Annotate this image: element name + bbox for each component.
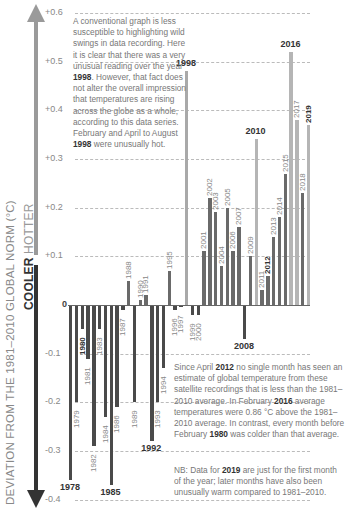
y-tick-label: -0.4 <box>45 494 61 504</box>
bar-label-2000: 2000 <box>194 323 203 341</box>
temperature-deviation-chart: DEVIATION FROM THE 1981–2010 GLOBAL NORM… <box>0 0 346 514</box>
bar-2000 <box>197 305 200 315</box>
gridline <box>75 159 310 160</box>
bar-label-2009: 2009 <box>246 237 255 255</box>
y-tick-label: -0.3 <box>45 445 61 455</box>
bar-label-1991: 1991 <box>141 275 150 293</box>
bar-2002 <box>208 198 211 305</box>
hotter-label: HOTTER <box>22 203 36 257</box>
bar-label-1983: 1983 <box>95 338 104 356</box>
y-tick-label: +0.3 <box>45 153 63 163</box>
bar-label-2007: 2007 <box>234 207 243 225</box>
bar-label-1985: 1985 <box>101 487 121 497</box>
annotation-nb-2019: NB: Data for 2019 are just for the first… <box>174 465 346 499</box>
bar-2005 <box>226 208 229 305</box>
bar-label-2005: 2005 <box>223 188 232 206</box>
bar-2011 <box>260 290 263 305</box>
bar-label-2003: 2003 <box>211 193 220 211</box>
bar-label-1980: 1980 <box>78 338 87 356</box>
bar-1982 <box>92 305 95 446</box>
y-tick-label: +0.4 <box>45 104 63 114</box>
bar-label-1995: 1995 <box>165 251 174 269</box>
zero-line <box>68 305 310 306</box>
bar-2001 <box>202 251 205 305</box>
bar-label-2008: 2008 <box>234 341 254 351</box>
bar-1984 <box>104 305 107 417</box>
y-tick-label: +0.6 <box>45 7 63 17</box>
gridline <box>75 13 310 14</box>
bar-2006 <box>231 251 234 305</box>
bar-1980 <box>81 305 84 329</box>
bar-1994 <box>162 305 165 368</box>
bar-1988 <box>127 281 130 305</box>
bar-label-2016: 2016 <box>280 39 300 49</box>
bar-label-1993: 1993 <box>153 411 162 429</box>
bar-2012 <box>266 276 269 305</box>
y-tick-label: +0.1 <box>45 250 63 260</box>
gridline <box>75 500 310 501</box>
bar-label-2006: 2006 <box>228 232 237 250</box>
bar-label-2014: 2014 <box>275 198 284 216</box>
bar-label-1987: 1987 <box>118 318 127 336</box>
bar-label-2018: 2018 <box>298 173 307 191</box>
bar-label-1981: 1981 <box>83 367 92 385</box>
y-tick-label: 0 <box>62 299 67 309</box>
y-tick-label: -0.1 <box>45 348 61 358</box>
cooler-label: COOLER <box>22 257 36 310</box>
y-tick-label: +0.5 <box>45 56 63 66</box>
bar-1981 <box>86 305 89 359</box>
bar-label-2001: 2001 <box>199 232 208 250</box>
bar-2017 <box>295 120 298 305</box>
bar-label-1988: 1988 <box>124 261 133 279</box>
bar-1983 <box>98 305 101 329</box>
bar-label-2015: 2015 <box>281 154 290 172</box>
bar-2004 <box>220 266 223 305</box>
bar-2009 <box>249 256 252 305</box>
annotation-1998: A conventional graph is less susceptible… <box>73 16 186 150</box>
bar-2014 <box>278 217 281 305</box>
bar-label-1997: 1997 <box>176 316 185 334</box>
bar-1999 <box>191 305 194 315</box>
bar-2018 <box>301 193 304 305</box>
bar-2007 <box>237 227 240 305</box>
y-tick-label: -0.2 <box>45 396 61 406</box>
bar-1989 <box>133 305 136 402</box>
bar-label-2017: 2017 <box>292 100 301 118</box>
bar-label-2004: 2004 <box>217 246 226 264</box>
bar-2016 <box>289 52 292 305</box>
bar-label-1986: 1986 <box>112 415 121 433</box>
bar-label-2013: 2013 <box>269 217 278 235</box>
bar-2015 <box>284 174 287 305</box>
bar-2019 <box>307 125 310 305</box>
bar-label-2012: 2012 <box>263 256 272 274</box>
bar-2013 <box>272 237 275 305</box>
bar-1995 <box>168 271 171 305</box>
y-axis-label-main: DEVIATION FROM THE 1981–2010 GLOBAL NORM… <box>4 200 16 505</box>
bar-label-1984: 1984 <box>101 425 110 443</box>
bar-1985 <box>110 305 113 485</box>
y-tick-label: +0.2 <box>45 202 63 212</box>
bar-label-1979: 1979 <box>72 411 81 429</box>
bar-label-1994: 1994 <box>159 377 168 395</box>
bar-label-1989: 1989 <box>130 411 139 429</box>
bar-label-1992: 1992 <box>141 443 161 453</box>
bar-2008 <box>243 305 246 339</box>
bar-label-1982: 1982 <box>89 454 98 472</box>
bar-label-2019: 2019 <box>304 105 313 123</box>
bar-1978 <box>69 305 72 480</box>
bar-label-1978: 1978 <box>60 482 80 492</box>
annotation-since-2012: Since April 2012 no single month has see… <box>174 362 346 440</box>
bar-1991 <box>144 295 147 305</box>
bar-label-2010: 2010 <box>246 126 266 136</box>
